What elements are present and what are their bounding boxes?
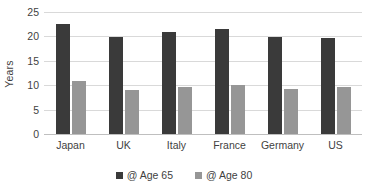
bar-age-65[interactable] — [162, 32, 176, 134]
bar-group — [150, 12, 203, 134]
x-axis-tick-label: UK — [97, 137, 150, 153]
legend-item-age-80[interactable]: @ Age 80 — [195, 169, 252, 181]
y-axis-tick-label: 10 — [17, 80, 39, 91]
bar-age-80[interactable] — [337, 87, 351, 134]
axis-baseline — [44, 134, 362, 135]
legend-label: @ Age 65 — [127, 169, 173, 181]
y-axis-title-label: Years — [3, 60, 15, 87]
x-axis-tick-labels: JapanUKItalyFranceGermanyUS — [44, 137, 362, 153]
y-axis-tick-label: 25 — [17, 7, 39, 18]
x-axis-tick-label: US — [309, 137, 362, 153]
plot-area — [44, 12, 362, 134]
legend-item-age-65[interactable]: @ Age 65 — [116, 169, 173, 181]
legend-swatch-icon — [116, 172, 123, 179]
chart-legend: @ Age 65@ Age 80 — [0, 166, 368, 184]
bar-age-80[interactable] — [125, 90, 139, 134]
y-axis-title: Years — [0, 0, 18, 148]
bar-age-65[interactable] — [56, 24, 70, 134]
bar-age-80[interactable] — [284, 89, 298, 134]
y-axis-tick-labels: 0510152025 — [17, 12, 39, 134]
bar-chart: Years 0510152025 JapanUKItalyFranceGerma… — [0, 0, 368, 193]
bar-age-80[interactable] — [231, 85, 245, 134]
y-axis-tick-label: 15 — [17, 56, 39, 67]
legend-label: @ Age 80 — [206, 169, 252, 181]
bar-age-65[interactable] — [268, 37, 282, 134]
x-axis-tick-label: Italy — [150, 137, 203, 153]
bar-age-65[interactable] — [109, 37, 123, 134]
y-axis-tick-label: 5 — [17, 104, 39, 115]
bar-group — [97, 12, 150, 134]
bars-layer — [44, 12, 362, 134]
x-axis-tick-label: Germany — [256, 137, 309, 153]
bar-age-65[interactable] — [215, 29, 229, 134]
bar-group — [203, 12, 256, 134]
bar-group — [309, 12, 362, 134]
bar-group — [256, 12, 309, 134]
x-axis-tick-label: Japan — [44, 137, 97, 153]
y-axis-tick-label: 0 — [17, 129, 39, 140]
bar-age-80[interactable] — [178, 87, 192, 134]
bar-age-80[interactable] — [72, 81, 86, 134]
bar-age-65[interactable] — [321, 38, 335, 134]
bar-group — [44, 12, 97, 134]
y-axis-tick-label: 20 — [17, 31, 39, 42]
legend-swatch-icon — [195, 172, 202, 179]
x-axis-tick-label: France — [203, 137, 256, 153]
